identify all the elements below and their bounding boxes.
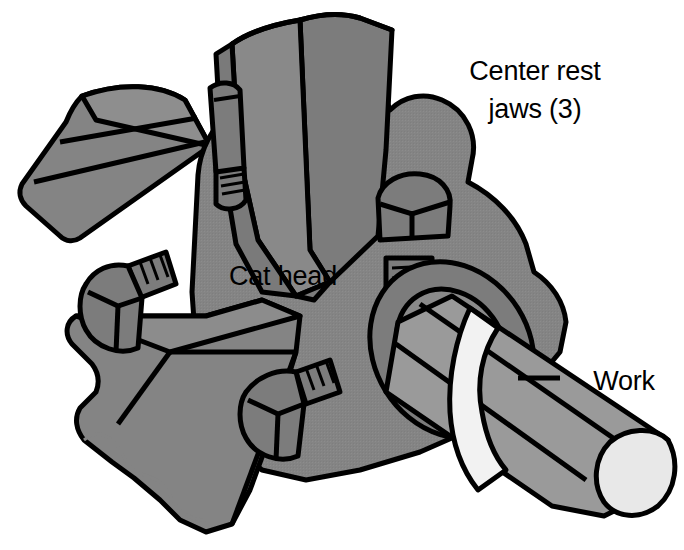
bolt-left-head-vertical-facet bbox=[116, 306, 118, 352]
bolt-bottom-head-vertical-facet bbox=[276, 414, 278, 460]
work-end-face bbox=[596, 430, 675, 515]
label-cat-head: Cat head bbox=[229, 261, 337, 291]
bolt-upper-left bbox=[210, 83, 246, 209]
bolt-bottom-head bbox=[240, 371, 304, 459]
label-work: Work bbox=[593, 366, 655, 396]
technical-illustration: Center rest jaws (3) Cat head Work bbox=[0, 0, 684, 550]
cat-head-diagram-svg: Center rest jaws (3) Cat head Work bbox=[0, 0, 684, 550]
label-center-rest-jaws-line2: jaws (3) bbox=[488, 94, 582, 124]
label-center-rest-jaws-line1: Center rest bbox=[469, 56, 601, 86]
bolt-left-head bbox=[80, 265, 142, 351]
